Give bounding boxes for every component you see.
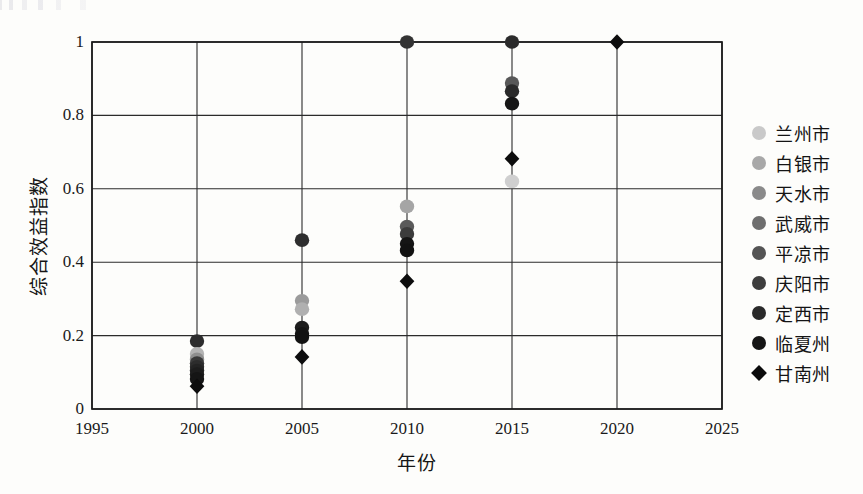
data-point <box>295 349 310 365</box>
data-point <box>505 151 520 167</box>
data-point <box>295 302 309 316</box>
x-tick-label: 2010 <box>390 419 424 439</box>
legend-circle-marker-icon <box>752 216 766 230</box>
data-point <box>505 35 519 49</box>
legend-diamond-marker-icon <box>751 365 767 381</box>
legend-item-label: 天水市 <box>775 180 831 206</box>
legend-circle-marker-icon <box>752 156 766 170</box>
x-tick-label: 1995 <box>75 419 109 439</box>
x-tick-label: 2020 <box>600 419 634 439</box>
legend-item-label: 庆阳市 <box>775 270 831 296</box>
data-point <box>295 330 309 344</box>
legend-circle-marker-icon <box>752 336 766 350</box>
data-point <box>190 334 204 348</box>
y-tick-label: 0 <box>34 399 84 419</box>
legend-item-label: 平凉市 <box>775 240 831 266</box>
legend-circle-marker-icon <box>752 306 766 320</box>
legend-item-label: 定西市 <box>775 300 831 326</box>
y-tick-label: 0.8 <box>34 105 84 125</box>
data-point <box>505 175 519 189</box>
legend-item[interactable]: 兰州市 <box>752 120 831 145</box>
y-tick-label: 1 <box>34 32 84 52</box>
legend-circle-marker-icon <box>752 186 766 200</box>
x-tick-label: 2005 <box>285 419 319 439</box>
legend-item[interactable]: 武威市 <box>752 210 831 235</box>
legend-item[interactable]: 平凉市 <box>752 240 831 265</box>
scatter-chart-figure: 1995200020052010201520202025 00.20.40.60… <box>0 0 863 494</box>
x-tick-label: 2025 <box>705 419 739 439</box>
data-point <box>400 200 414 214</box>
legend-item[interactable]: 白银市 <box>752 150 831 175</box>
data-point <box>505 97 519 111</box>
legend-item[interactable]: 甘南州 <box>752 360 831 385</box>
chart-legend: 兰州市白银市天水市武威市平凉市庆阳市定西市临夏州甘南州 <box>752 120 831 385</box>
x-tick-label: 2015 <box>495 419 529 439</box>
legend-circle-marker-icon <box>752 276 766 290</box>
legend-item-label: 兰州市 <box>775 120 831 146</box>
legend-item-label: 甘南州 <box>775 360 831 386</box>
x-tick-label: 2000 <box>180 419 214 439</box>
legend-item-label: 白银市 <box>775 150 831 176</box>
data-point <box>295 233 309 247</box>
data-point <box>505 84 519 98</box>
data-point <box>400 35 414 49</box>
y-axis-title: 综合效益指数 <box>24 136 51 336</box>
legend-item[interactable]: 庆阳市 <box>752 270 831 295</box>
legend-item[interactable]: 天水市 <box>752 180 831 205</box>
legend-circle-marker-icon <box>752 246 766 260</box>
legend-item-label: 武威市 <box>775 210 831 236</box>
data-point <box>400 244 414 258</box>
legend-item-label: 临夏州 <box>775 330 831 356</box>
legend-circle-marker-icon <box>752 126 766 140</box>
legend-item[interactable]: 定西市 <box>752 300 831 325</box>
legend-item[interactable]: 临夏州 <box>752 330 831 355</box>
x-axis-title: 年份 <box>0 448 863 475</box>
data-point <box>400 274 415 290</box>
data-point <box>610 34 625 50</box>
